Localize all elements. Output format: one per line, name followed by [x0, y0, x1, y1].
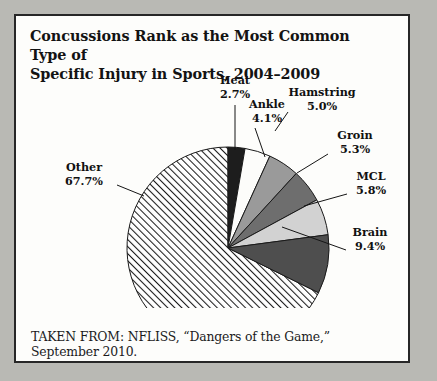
title-line-1: Concussions Rank as the Most Common Type… — [30, 26, 390, 64]
label-mcl-pct: 5.8% — [356, 183, 386, 197]
label-heat-name: Heat — [220, 73, 251, 87]
label-groin-name: Groin — [337, 128, 372, 142]
label-hamstring-pct: 5.0% — [307, 99, 337, 113]
label-heat-pct: 2.7% — [220, 87, 250, 101]
label-mcl-name: MCL — [356, 169, 385, 183]
pie-chart: Heat 2.7% Ankle 4.1% Hamstring 5.0% Groi… — [16, 72, 408, 308]
leader-line-groin — [297, 154, 328, 173]
label-hamstring-name: Hamstring — [288, 85, 355, 99]
label-brain-pct: 9.4% — [355, 239, 385, 253]
label-other-pct: 67.7% — [65, 174, 103, 188]
label-groin-pct: 5.3% — [340, 142, 370, 156]
label-brain-name: Brain — [353, 225, 388, 239]
label-ankle-pct: 4.1% — [252, 111, 282, 125]
pie-chart-svg: Heat 2.7% Ankle 4.1% Hamstring 5.0% Groi… — [16, 72, 408, 308]
figure-panel: Concussions Rank as the Most Common Type… — [14, 14, 410, 363]
leader-line-other — [117, 185, 144, 196]
label-other-name: Other — [66, 160, 103, 174]
pie-slices — [127, 147, 329, 308]
label-ankle-name: Ankle — [248, 97, 285, 111]
source-note: TAKEN FROM: NFLISS, “Dangers of the Game… — [31, 329, 401, 359]
